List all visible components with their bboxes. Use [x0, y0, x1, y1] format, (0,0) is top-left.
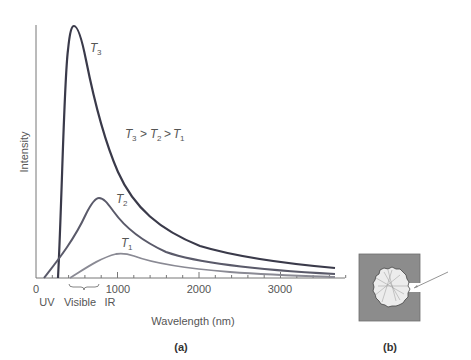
x-tick-label-1000: 1000	[106, 283, 130, 295]
curve-t3	[58, 26, 335, 278]
temperature-relation: T 3 > T 2 > T 1	[125, 127, 185, 143]
svg-text:2: 2	[123, 199, 128, 208]
visible-label: Visible	[64, 296, 96, 308]
y-axis-label: Intensity	[18, 131, 30, 172]
svg-text:>: >	[164, 127, 171, 141]
panel-label-a: (a)	[174, 341, 188, 353]
x-tick-label-2000: 2000	[187, 283, 211, 295]
svg-text:1: 1	[128, 243, 133, 252]
curve-t1	[70, 254, 335, 278]
figure: Intensity 0 1000 2000 3000 UV Visible IR…	[0, 0, 471, 360]
svg-text:1: 1	[180, 134, 185, 143]
label-t1: T 1	[121, 236, 133, 252]
svg-text:3: 3	[132, 134, 137, 143]
svg-text:>: >	[140, 127, 147, 141]
panel-label-b: (b)	[383, 341, 397, 353]
x-tick-label-3000: 3000	[268, 283, 292, 295]
x-axis-label: Wavelength (nm)	[151, 315, 234, 327]
visible-range-brace	[69, 284, 99, 290]
blackbody-cavity-diagram	[359, 254, 448, 321]
ir-label: IR	[105, 296, 116, 308]
uv-label: UV	[39, 296, 55, 308]
label-t3: T 3	[90, 41, 102, 57]
x-tick-label-0: 0	[33, 283, 39, 295]
svg-text:3: 3	[97, 48, 102, 57]
svg-text:2: 2	[157, 134, 162, 143]
label-t2: T 2	[116, 192, 128, 208]
